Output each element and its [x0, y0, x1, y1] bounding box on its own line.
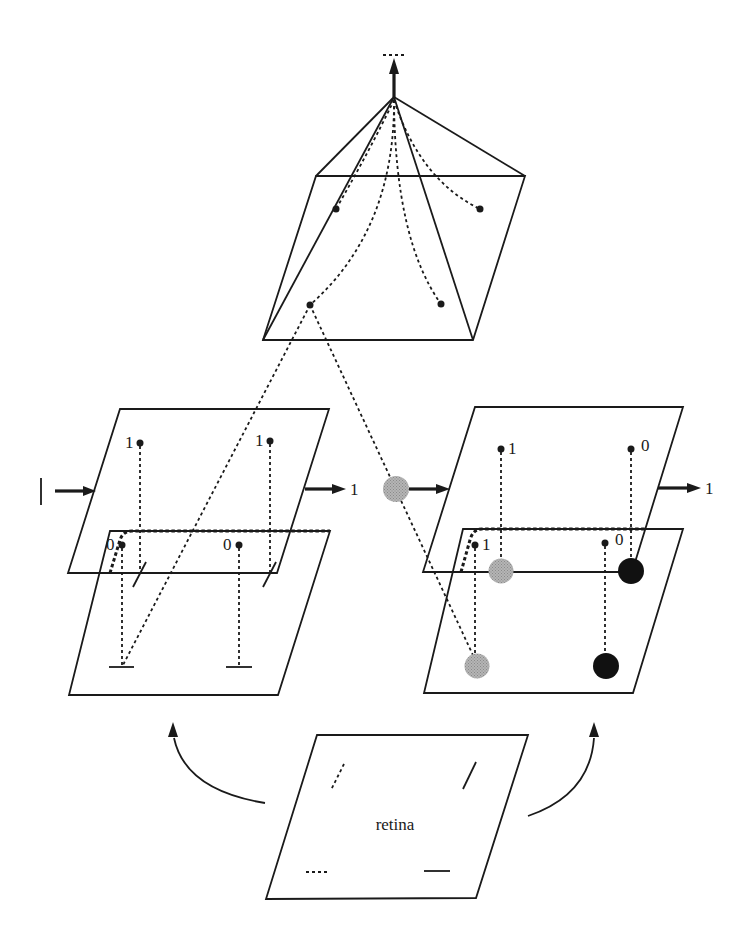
right-module: 1 1 0 1 0 — [383, 407, 714, 693]
retina-to-right-arrowhead-icon — [589, 722, 599, 737]
right-lower-label-2: 0 — [615, 530, 624, 549]
right-lower-plane — [424, 529, 683, 693]
pyramid-unit — [438, 301, 445, 308]
connection-curve — [336, 100, 394, 209]
left-upper-label-1: 1 — [125, 433, 134, 452]
pyramid-edge — [394, 97, 473, 340]
right-black-unit-upper — [618, 558, 644, 584]
right-lower-label-1: 1 — [482, 535, 491, 554]
left-lower-unit-1 — [119, 542, 126, 549]
right-black-unit-lower — [593, 653, 619, 679]
retina-to-left-arrowhead-icon — [168, 722, 178, 737]
retina-feature-dashed-oblique — [331, 764, 344, 790]
right-grey-unit-upper — [489, 559, 514, 584]
left-lower-plane — [69, 531, 330, 695]
left-upper-unit-2 — [267, 438, 274, 445]
connection-curve — [310, 100, 394, 305]
connection-curve — [394, 100, 480, 209]
retina-feature-solid-oblique — [463, 762, 476, 789]
right-upper-unit-1 — [498, 446, 505, 453]
right-upper-unit-2 — [628, 446, 635, 453]
pyramid-edge — [316, 97, 394, 176]
connection-curve — [394, 100, 441, 304]
right-upper-plane — [423, 407, 683, 572]
retina-to-right-arrow — [528, 738, 594, 816]
right-lower-unit-2 — [602, 540, 609, 547]
right-input-grey-unit — [383, 476, 409, 502]
left-lower-label-1: 0 — [106, 535, 115, 554]
right-output-label: 1 — [705, 479, 714, 498]
retina: retina — [168, 722, 599, 899]
right-upper-label-1: 1 — [508, 439, 517, 458]
pyramid-output-arrowhead-icon — [389, 58, 399, 74]
pyramid-edge — [394, 97, 525, 176]
retina-label: retina — [376, 815, 415, 834]
left-output-arrowhead-icon — [332, 484, 346, 494]
right-upper-label-2: 0 — [641, 436, 650, 455]
left-input-arrowhead-icon — [83, 486, 96, 496]
left-upper-unit-1 — [137, 440, 144, 447]
pyramid — [263, 55, 525, 340]
left-module: 1 1 1 0 0 — [41, 409, 359, 695]
pyramid-unit — [333, 206, 340, 213]
left-tilted-bar-1 — [133, 562, 146, 587]
descending-connection-left — [122, 305, 310, 667]
right-lower-unit-1 — [472, 542, 479, 549]
pyramid-edge — [263, 97, 394, 340]
left-lower-unit-2 — [236, 542, 243, 549]
left-output-label: 1 — [350, 480, 359, 499]
left-lower-label-2: 0 — [223, 535, 232, 554]
network-diagram: 1 1 1 0 0 1 1 — [0, 0, 749, 941]
retina-to-left-arrow — [174, 738, 265, 803]
right-grey-unit-lower — [465, 654, 490, 679]
right-output-arrowhead-icon — [687, 483, 701, 493]
left-upper-label-2: 1 — [255, 431, 264, 450]
pyramid-base-plane — [263, 176, 525, 340]
pyramid-unit — [477, 206, 484, 213]
